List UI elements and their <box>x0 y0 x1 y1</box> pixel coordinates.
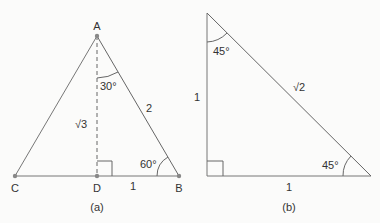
point-c <box>13 174 17 178</box>
side-label-2: 2 <box>146 102 152 114</box>
right-angle-marker <box>207 161 223 176</box>
side-label-sqrt3: √3 <box>75 118 87 130</box>
side-label-vertical-1: 1 <box>194 91 200 103</box>
point-b <box>177 174 181 178</box>
label-a: A <box>93 20 101 32</box>
label-c: C <box>11 182 19 194</box>
angle-label-45-bottom: 45° <box>322 159 339 171</box>
angle-label-60: 60° <box>140 158 157 170</box>
triangles-diagram: A C D B 30° 60° 2 √3 1 (a) 45° 45° √2 1 … <box>0 0 380 223</box>
right-angle-marker-d <box>97 161 112 176</box>
side-label-base-1: 1 <box>286 181 292 193</box>
point-a <box>95 34 99 38</box>
label-d: D <box>93 182 101 194</box>
angle-arc-30 <box>97 72 118 78</box>
label-b: B <box>175 182 182 194</box>
angle-label-45-top: 45° <box>213 45 230 57</box>
figure-b: 45° 45° √2 1 1 (b) <box>194 13 371 213</box>
figure-a: A C D B 30° 60° 2 √3 1 (a) <box>11 20 183 213</box>
side-label-sqrt2: √2 <box>293 81 305 93</box>
angle-arc-45-bottom <box>343 156 351 176</box>
side-ac <box>15 36 97 176</box>
caption-a: (a) <box>90 201 103 213</box>
point-d <box>95 174 99 178</box>
angle-label-30: 30° <box>100 80 117 92</box>
side-ab <box>97 36 179 176</box>
caption-b: (b) <box>282 201 295 213</box>
side-hypotenuse <box>207 13 371 176</box>
side-label-1: 1 <box>130 180 136 192</box>
angle-arc-45-top <box>207 33 227 42</box>
angle-arc-60 <box>157 157 168 176</box>
